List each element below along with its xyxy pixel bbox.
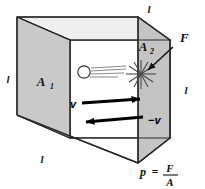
circle-icon xyxy=(78,66,90,78)
label-velocity-reverse: −v xyxy=(148,114,161,126)
label-area-a2-text: A xyxy=(138,39,148,54)
gas-pressure-diagram: A 1 A 2 F v −v l l l l p = F A xyxy=(0,0,205,189)
label-force: F xyxy=(179,30,189,45)
equation-denominator: A xyxy=(165,176,173,188)
equation-equals: = xyxy=(152,165,159,179)
equation-lhs: p xyxy=(139,165,146,179)
label-area-a2-sub: 2 xyxy=(149,47,154,56)
label-velocity-forward: v xyxy=(70,98,77,110)
label-area-a1-text: A xyxy=(36,74,46,89)
equation-numerator: F xyxy=(165,162,174,174)
diagram-canvas: A 1 A 2 F v −v l l l l p = F A xyxy=(0,0,205,189)
label-area-a1-sub: 1 xyxy=(50,82,54,91)
